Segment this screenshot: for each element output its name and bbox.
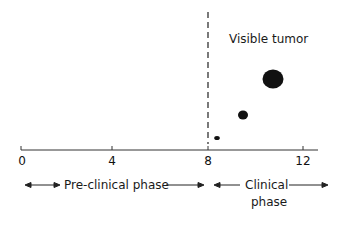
tick-label-4: 4	[108, 155, 116, 167]
tick-label-12: 12	[295, 155, 310, 167]
preclinical-phase-label: Pre-clinical phase	[64, 179, 169, 191]
clinical-phase-label-line2: phase	[251, 196, 287, 208]
tumor-large	[263, 70, 284, 89]
tick-label-8: 8	[204, 155, 212, 167]
tumor-small	[214, 136, 220, 140]
tumor-medium	[238, 111, 248, 120]
tick-label-0: 0	[18, 155, 26, 167]
visible-tumor-label: Visible tumor	[229, 33, 308, 45]
clinical-phase-label-line1: Clinical	[245, 179, 288, 191]
